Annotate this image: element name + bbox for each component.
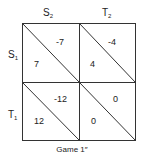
figure-caption: Game 1″ bbox=[0, 145, 144, 154]
cell-t1-t2-row-payoff: 0 bbox=[91, 117, 96, 126]
cell-s1-t2-row-payoff: 4 bbox=[90, 60, 95, 69]
cell-t1-s2-row-payoff: 12 bbox=[34, 117, 44, 126]
cell-t1-s2-col-payoff: -12 bbox=[54, 95, 67, 104]
cell-s1-t2-col-payoff: -4 bbox=[108, 38, 116, 47]
cell-s1-s2-col-payoff: -7 bbox=[56, 38, 64, 47]
cell-t1-t2-col-payoff: 0 bbox=[113, 95, 118, 104]
payoff-grid bbox=[0, 0, 144, 159]
cell-s1-s2-row-payoff: 7 bbox=[34, 60, 39, 69]
